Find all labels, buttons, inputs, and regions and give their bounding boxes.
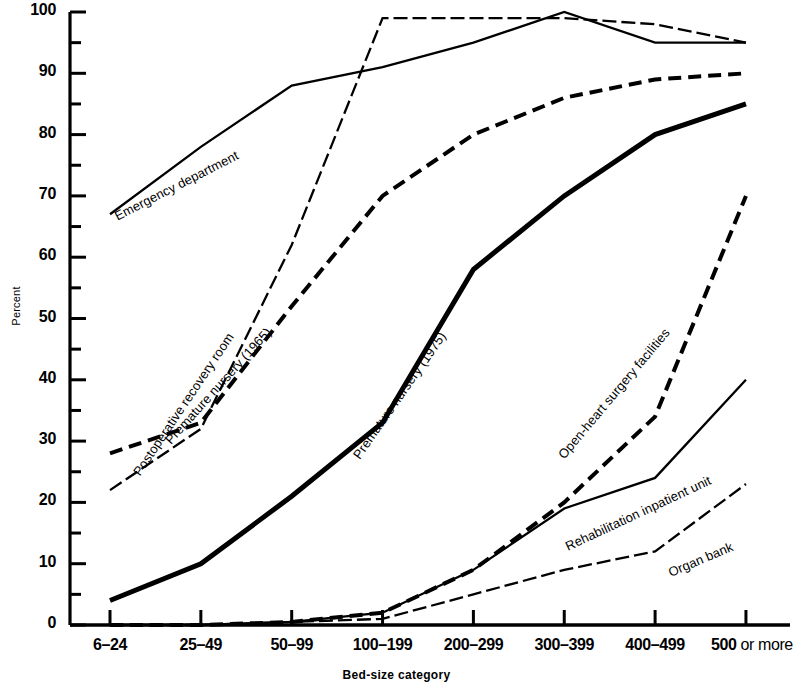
y-axis-title: Percent: [10, 276, 22, 336]
y-tick-label: 50: [10, 308, 56, 326]
y-tick-label: 20: [10, 491, 56, 509]
y-tick-label: 70: [10, 185, 56, 203]
y-tick-label: 40: [10, 369, 56, 387]
y-tick-label: 80: [10, 124, 56, 142]
y-tick-label: 60: [10, 246, 56, 264]
x-axis-title: Bed-size category: [0, 668, 793, 682]
y-tick-label: 90: [10, 62, 56, 80]
y-tick-label: 100: [10, 1, 56, 19]
series-line: [110, 12, 746, 214]
y-tick-label: 10: [10, 553, 56, 571]
y-tick-label: 0: [10, 614, 56, 632]
x-tick-label: 500 or more: [677, 636, 798, 654]
series-layer: [110, 12, 746, 625]
y-tick-label: 30: [10, 430, 56, 448]
axis-layer: [70, 12, 790, 625]
